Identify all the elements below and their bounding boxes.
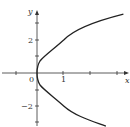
parabola-plot: y x 0 1 2 −2 <box>0 0 130 127</box>
x-tick-label-1: 1 <box>61 75 66 84</box>
x-axis-arrow-icon <box>124 71 129 75</box>
y-tick-label-neg-2: −2 <box>21 102 33 111</box>
y-tick-label-2: 2 <box>28 36 33 45</box>
y-axis-label: y <box>27 7 33 16</box>
x-axis-label: x <box>125 76 130 85</box>
parabola-curve <box>37 14 123 126</box>
y-axis-arrow-icon <box>35 10 39 15</box>
origin-label: 0 <box>29 75 34 84</box>
